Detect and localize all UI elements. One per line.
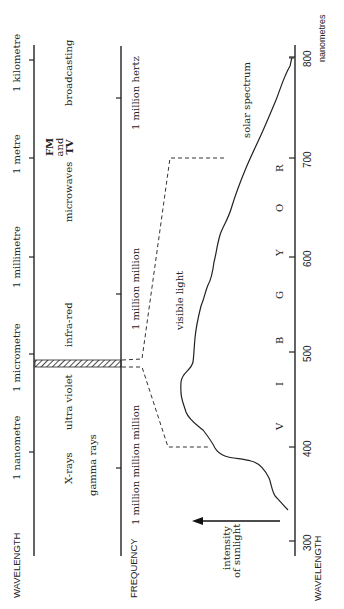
- tick-label-1-nanometre: 1 nanometre: [12, 415, 22, 480]
- spectrum-diagram: [0, 0, 344, 609]
- freq-label-1-million-hertz: 1 million hertz: [131, 56, 141, 130]
- intensity-line-2: of sunlight: [232, 518, 242, 578]
- nm-ticks: [289, 57, 295, 541]
- tick-label-1-metre: 1 metre: [12, 134, 22, 174]
- visible-light-label: visible light: [175, 271, 185, 330]
- region-microwaves: microwaves: [64, 162, 74, 222]
- solar-spectrum-curve: [181, 58, 292, 510]
- nm-unit-label: nanometres: [318, 14, 327, 62]
- region-broadcasting: broadcasting: [64, 40, 74, 106]
- nm-label-800: 800: [303, 50, 313, 67]
- region-fm-tv: FM and TV: [45, 129, 75, 165]
- frequency-ticks: [116, 98, 121, 468]
- region-ultraviolet: ultra violet: [64, 374, 74, 430]
- colour-letter-b: B: [275, 337, 285, 344]
- region-xrays: X-rays: [64, 452, 74, 484]
- tv-label: TV: [65, 129, 75, 165]
- colour-letter-v: V: [275, 423, 285, 430]
- colour-letter-o: O: [275, 204, 285, 212]
- freq-label-1-million-million-million: 1 million million million: [131, 405, 141, 525]
- freq-label-1-million-million: 1 million million: [131, 248, 141, 330]
- visible-band-hatch: [35, 360, 121, 367]
- nm-label-600: 600: [303, 250, 313, 267]
- solar-spectrum-label: solar spectrum: [242, 62, 252, 138]
- nm-label-400: 400: [303, 440, 313, 457]
- colour-letter-i: I: [275, 382, 285, 386]
- colour-letter-y: Y: [275, 249, 285, 256]
- frequency-title: FREQUENCY: [129, 538, 139, 598]
- intensity-label: intensity of sunlight: [222, 518, 242, 578]
- nm-label-700: 700: [303, 151, 313, 168]
- wavelength-title: WAVELENGTH: [12, 533, 22, 598]
- arrow-head-icon: [192, 517, 203, 525]
- region-gamma-rays: gamma rays: [88, 434, 98, 496]
- colour-letter-g: G: [275, 291, 285, 299]
- nm-label-500: 500: [303, 345, 313, 362]
- tick-label-1-kilometre: 1 kilometre: [12, 34, 22, 92]
- region-infrared: infra-red: [64, 302, 74, 347]
- wavelength-ticks: [29, 60, 34, 452]
- colour-letter-r: R: [275, 164, 285, 172]
- tick-label-1-micrometre: 1 micrometre: [12, 323, 22, 392]
- tick-label-1-millimetre: 1 millimetre: [12, 226, 22, 288]
- nm-axis-title: WAVELENGTH: [313, 536, 323, 601]
